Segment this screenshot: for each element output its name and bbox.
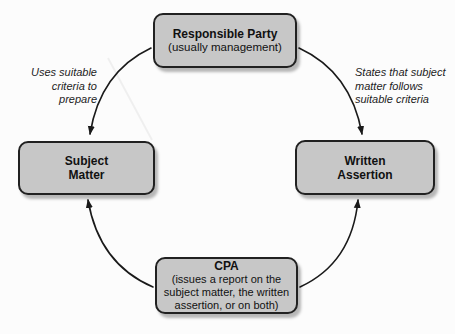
- scan-artifact-line: [108, 58, 152, 140]
- annotation-states-suitable-criteria: States that subject matter follows suita…: [355, 66, 446, 107]
- node-title: Subject Matter: [65, 154, 108, 182]
- annotation-uses-suitable-criteria: Uses suitable criteria to prepare: [10, 66, 97, 107]
- node-cpa: CPA (issues a report on the subject matt…: [155, 257, 298, 314]
- node-subtitle: (usually management): [168, 41, 282, 54]
- node-subtitle: (issues a report on the subject matter, …: [164, 273, 289, 312]
- arrow-cpa-to-written-assertion: [300, 200, 358, 287]
- node-written-assertion: Written Assertion: [295, 140, 435, 195]
- node-responsible-party: Responsible Party (usually management): [153, 13, 297, 68]
- arrow-responsible-party-to-written-assertion: [299, 48, 362, 134]
- arrow-cpa-to-subject-matter: [88, 200, 153, 287]
- node-title: Written Assertion: [337, 154, 392, 182]
- node-subject-matter: Subject Matter: [18, 141, 155, 195]
- node-title: Responsible Party: [173, 27, 278, 41]
- attestation-relationships-diagram: Responsible Party (usually management) S…: [0, 0, 455, 334]
- node-title: CPA: [214, 259, 238, 273]
